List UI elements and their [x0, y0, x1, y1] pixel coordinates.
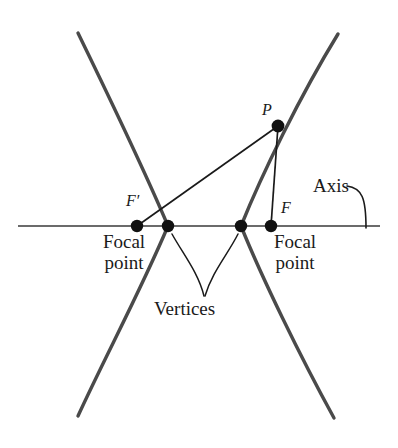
segment-focus-right-to-p — [271, 126, 278, 226]
left-branch-upper-curve — [78, 33, 168, 226]
hyperbola-figure: F′ F P Focal point Focal point Vertices … — [0, 0, 398, 448]
label-axis: Axis — [313, 176, 349, 197]
vertices-leader-right-line — [205, 234, 238, 296]
label-focal-point-left: Focal point — [88, 232, 160, 273]
label-focus-left: F′ — [126, 192, 139, 209]
label-focal-point-right: Focal point — [257, 232, 333, 273]
label-focal-point-left-line2: point — [88, 253, 160, 274]
label-focal-point-right-line2: point — [257, 253, 333, 274]
label-point-p: P — [262, 101, 272, 118]
right-branch-upper-curve — [241, 34, 338, 226]
label-focal-point-right-line1: Focal — [257, 232, 333, 253]
segment-focus-left-to-p — [137, 126, 278, 226]
vertices-leader-left-line — [172, 234, 204, 296]
dot-vertex-left — [162, 220, 174, 232]
dot-vertex-right — [235, 220, 247, 232]
axis-leader-line — [347, 186, 366, 228]
label-vertices: Vertices — [154, 299, 215, 320]
label-focal-point-left-line1: Focal — [88, 232, 160, 253]
dot-point-p — [272, 120, 285, 133]
hyperbola-diagram-canvas — [0, 0, 398, 448]
label-focus-right: F — [281, 199, 291, 216]
